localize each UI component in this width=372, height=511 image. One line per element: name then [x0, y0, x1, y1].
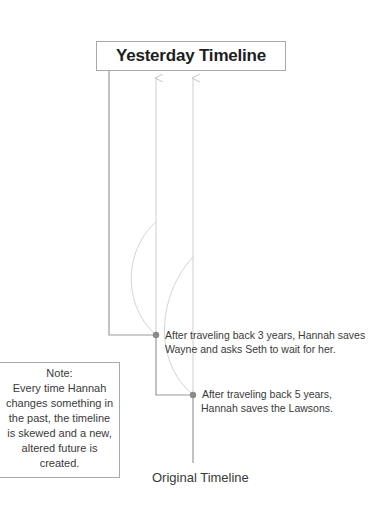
event-label-line: After traveling back 5 years,	[201, 387, 333, 401]
timeline-title: Yesterday Timeline	[116, 46, 266, 66]
timeline-title-box: Yesterday Timeline	[96, 41, 286, 71]
jump-point-dot-2	[190, 392, 196, 398]
note-box: Note: Every time Hannah changes somethin…	[0, 362, 120, 478]
event-label-line: Hannah saves the Lawsons.	[201, 401, 333, 415]
event-label-3-years: After traveling back 3 years, Hannah sav…	[165, 328, 365, 356]
note-line: Every time Hannah	[0, 381, 119, 396]
event-label-line: After traveling back 3 years, Hannah sav…	[165, 328, 365, 342]
note-line: changes something in	[0, 396, 119, 411]
note-line: the past, the timeline	[0, 411, 119, 426]
time-travel-curve-3-years	[131, 222, 156, 335]
note-line: is skewed and a new,	[0, 426, 119, 441]
time-travel-curve-5-years	[164, 257, 193, 395]
event-label-5-years: After traveling back 5 years, Hannah sav…	[201, 387, 333, 415]
note-heading: Note:	[0, 366, 119, 381]
event-label-line: Wayne and asks Seth to wait for her.	[165, 342, 365, 356]
note-line: created.	[0, 456, 119, 471]
note-line: altered future is	[0, 441, 119, 456]
original-timeline-label: Original Timeline	[152, 470, 249, 485]
jump-point-dot-1	[153, 332, 159, 338]
